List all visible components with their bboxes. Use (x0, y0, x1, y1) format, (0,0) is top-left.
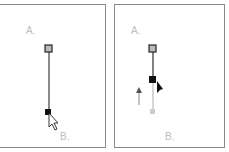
anchor-start-icon (45, 45, 52, 52)
panel-right: A. B. (114, 4, 225, 148)
path-segment-diagram (115, 5, 226, 149)
path-segment-diagram (0, 5, 107, 149)
anchor-original-ghost-icon (150, 109, 155, 114)
cursor-solid-arrow-icon (157, 81, 163, 93)
cursor-hollow-arrow-icon (49, 113, 58, 130)
anchor-start-icon (149, 45, 156, 52)
anchor-moved-icon (149, 76, 156, 83)
panel-left: A. B. (0, 4, 106, 148)
